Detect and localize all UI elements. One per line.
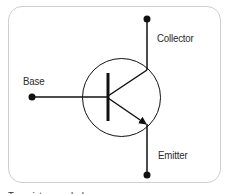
emitter-terminal-dot	[144, 172, 151, 179]
collector-label: Collector	[157, 32, 194, 44]
base-label: Base	[23, 75, 44, 87]
figure-caption: Transistor symbol	[8, 190, 131, 194]
collector-diagonal	[108, 70, 147, 96]
emitter-diagonal	[108, 98, 146, 124]
emitter-label: Emitter	[158, 149, 187, 161]
caption-clip: Transistor symbol	[8, 190, 148, 194]
base-terminal-dot	[29, 94, 36, 101]
transistor-schematic	[0, 0, 226, 194]
collector-terminal-dot	[144, 16, 151, 23]
